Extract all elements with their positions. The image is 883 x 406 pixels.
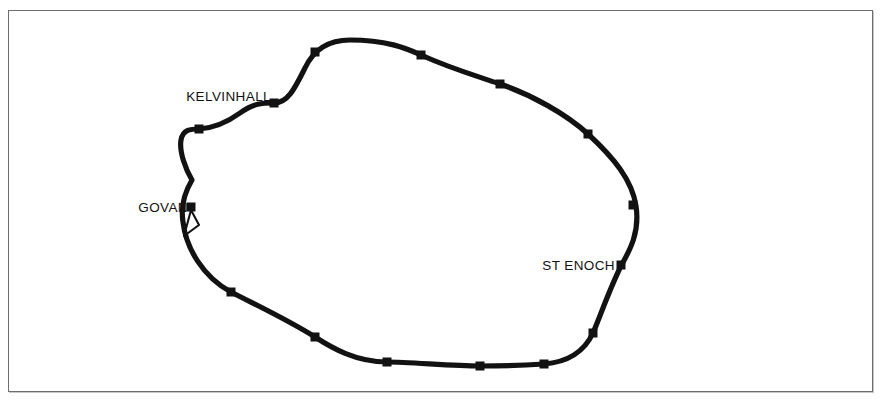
station-marker-st-west-upper[interactable] <box>195 125 204 134</box>
station-marker-st-south-mid-west[interactable] <box>383 358 392 367</box>
station-labels-group: ST ENOCHGOVANKELVINHALL <box>138 89 615 273</box>
station-marker-st-east-lower[interactable] <box>629 201 638 210</box>
station-marker-st-east-mid[interactable] <box>584 130 593 139</box>
station-marker-st-enoch[interactable] <box>617 261 626 270</box>
station-label-st-kelvinhall: KELVINHALL <box>186 89 271 104</box>
station-marker-st-south-west[interactable] <box>311 333 320 342</box>
station-marker-st-south-mid-east[interactable] <box>540 360 549 369</box>
station-marker-st-east-upper[interactable] <box>496 80 505 89</box>
station-label-st-enoch: ST ENOCH <box>542 258 615 273</box>
map-figure: ST ENOCHGOVANKELVINHALL <box>0 0 883 406</box>
station-marker-st-south-east[interactable] <box>589 329 598 338</box>
station-marker-st-top-left[interactable] <box>311 48 320 57</box>
subway-map-canvas: ST ENOCHGOVANKELVINHALL <box>0 0 883 406</box>
station-marker-st-west-lower[interactable] <box>227 288 236 297</box>
station-label-st-govan: GOVAN <box>138 200 188 215</box>
station-marker-st-top-right[interactable] <box>417 51 426 60</box>
station-marker-st-south-mid[interactable] <box>476 362 485 371</box>
